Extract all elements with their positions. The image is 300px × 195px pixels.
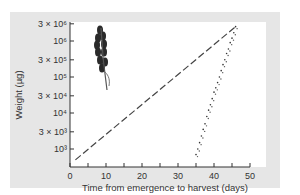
y-tick-label: 3 × 10⁵ — [38, 55, 67, 65]
data-point — [227, 55, 228, 56]
data-point — [211, 106, 212, 107]
x-tick-label: 40 — [209, 171, 219, 181]
data-point — [204, 123, 206, 125]
data-point — [224, 59, 226, 61]
data-point — [220, 70, 222, 72]
data-point — [210, 104, 212, 106]
data-point — [228, 48, 230, 50]
data-point — [200, 144, 201, 145]
y-tick-label: 10⁵ — [53, 72, 67, 82]
data-point — [222, 72, 223, 73]
data-point — [233, 32, 235, 34]
data-point — [202, 137, 203, 138]
data-point — [206, 125, 207, 126]
x-tick-label: 30 — [173, 171, 183, 181]
data-point — [215, 87, 217, 89]
data-point — [206, 116, 208, 118]
data-point — [195, 154, 197, 156]
data-point — [208, 109, 210, 111]
data-point — [211, 98, 213, 100]
data-point — [224, 66, 225, 67]
data-point — [222, 64, 224, 66]
data-point — [229, 42, 231, 44]
data-point — [217, 82, 219, 84]
data-point — [204, 131, 205, 132]
y-tick-label: 3 × 10³ — [39, 127, 67, 137]
data-point — [209, 111, 210, 112]
y-tick-label: 3 × 10⁶ — [38, 19, 67, 29]
data-point — [226, 61, 227, 62]
y-tick-label: 10⁶ — [53, 36, 67, 46]
data-point — [197, 148, 199, 150]
y-axis-title: Weight (µg) — [13, 70, 24, 119]
y-tick-label: 3 × 10⁴ — [38, 91, 67, 101]
data-point — [215, 93, 216, 94]
data-point — [201, 135, 203, 137]
data-point — [236, 28, 237, 29]
plant-illustration — [94, 26, 109, 91]
data-point — [202, 129, 204, 131]
data-point — [220, 78, 221, 79]
data-point — [213, 91, 215, 93]
x-tick-label: 0 — [67, 171, 72, 181]
y-tick-label: 10³ — [54, 144, 67, 154]
data-point — [199, 150, 200, 151]
chart-svg: 0102030405010³3 × 10³10⁴3 × 10⁴10⁵3 × 10… — [0, 0, 300, 195]
y-tick-label: 10⁴ — [53, 108, 67, 118]
data-point — [197, 156, 198, 157]
data-point — [213, 100, 214, 101]
data-point — [231, 37, 233, 39]
data-point — [231, 44, 232, 45]
x-axis-title: Time from emergence to harvest (days) — [82, 182, 248, 193]
data-point — [217, 89, 218, 90]
x-tick-label: 50 — [245, 171, 255, 181]
data-point — [226, 53, 228, 55]
data-point — [235, 26, 237, 28]
data-point — [199, 142, 201, 144]
data-point — [208, 118, 209, 119]
x-tick-label: 10 — [101, 171, 111, 181]
x-tick-label: 20 — [137, 171, 147, 181]
data-point — [235, 34, 236, 35]
data-point — [233, 39, 234, 40]
data-point — [229, 50, 230, 51]
data-point — [218, 84, 219, 85]
data-point — [219, 76, 221, 78]
